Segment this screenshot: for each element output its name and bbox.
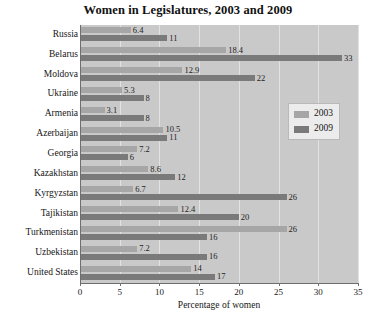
bar-2009 xyxy=(80,75,255,81)
bar-2009 xyxy=(80,214,239,220)
y-axis-label: Turkmenistan xyxy=(0,227,78,237)
bar-value-label-2009: 11 xyxy=(169,34,177,43)
bar-group: 7.216 xyxy=(80,243,358,263)
legend-label-2003: 2003 xyxy=(314,109,333,119)
y-axis-category-labels: RussiaBelarusMoldovaUkraineArmeniaAzerba… xyxy=(0,25,78,283)
x-axis-tick-label: 5 xyxy=(117,287,122,297)
bar-value-label-2009: 33 xyxy=(344,54,353,63)
bar-2003 xyxy=(80,127,163,133)
y-axis-label: Armenia xyxy=(0,108,78,118)
bar-group: 7.26 xyxy=(80,144,358,164)
chart-title: Women in Legislatures, 2003 and 2009 xyxy=(0,3,376,18)
bar-2009 xyxy=(80,194,287,200)
bar-value-label-2003: 14 xyxy=(193,264,202,273)
x-axis-tick-mark xyxy=(358,283,359,286)
x-axis-line xyxy=(80,283,358,284)
x-axis-tick-label: 35 xyxy=(354,287,363,297)
bar-value-label-2009: 26 xyxy=(289,193,298,202)
bar-value-label-2003: 7.2 xyxy=(139,244,150,253)
plot-area: 6.41118.43312.9225.383.1810.5117.268.612… xyxy=(80,25,358,283)
bar-value-label-2003: 12.9 xyxy=(184,66,199,75)
x-axis-tick-mark xyxy=(159,283,160,286)
x-axis-title: Percentage of women xyxy=(80,300,358,310)
bar-group: 8.612 xyxy=(80,164,358,184)
bar-2009 xyxy=(80,254,207,260)
x-axis-tick-mark xyxy=(318,283,319,286)
x-axis-tick-mark xyxy=(199,283,200,286)
legend-swatch-2003-icon xyxy=(294,111,309,118)
x-axis-tick-mark xyxy=(239,283,240,286)
y-axis-line xyxy=(80,25,81,284)
y-axis-label: Russia xyxy=(0,29,78,39)
bar-value-label-2003: 8.6 xyxy=(150,165,161,174)
bar-value-label-2003: 5.3 xyxy=(124,86,135,95)
x-axis-tick-label: 15 xyxy=(195,287,204,297)
bar-group: 5.38 xyxy=(80,85,358,105)
bar-2003 xyxy=(80,146,137,152)
bar-2003 xyxy=(80,107,105,113)
bar-value-label-2003: 18.4 xyxy=(228,46,243,55)
bar-value-label-2009: 16 xyxy=(209,233,218,242)
bar-2003 xyxy=(80,226,287,232)
bar-2009 xyxy=(80,234,207,240)
legend-label-2009: 2009 xyxy=(314,124,333,134)
gridline xyxy=(358,25,359,283)
bar-value-label-2009: 12 xyxy=(177,173,186,182)
y-axis-label: Azerbaijan xyxy=(0,128,78,138)
legend-swatch-2009-icon xyxy=(294,126,309,133)
bar-2003 xyxy=(80,67,182,73)
bar-2009 xyxy=(80,35,167,41)
bar-group: 2616 xyxy=(80,223,358,243)
bar-value-label-2003: 26 xyxy=(289,225,298,234)
bar-value-label-2003: 12.4 xyxy=(180,205,195,214)
bar-2009 xyxy=(80,95,144,101)
y-axis-label: Tajikistan xyxy=(0,208,78,218)
bar-2009 xyxy=(80,135,167,141)
bar-2009 xyxy=(80,274,215,280)
bar-group: 6.726 xyxy=(80,184,358,204)
bar-2003 xyxy=(80,27,131,33)
x-axis-tick-label: 0 xyxy=(78,287,83,297)
bar-value-label-2003: 6.4 xyxy=(133,26,144,35)
bar-2009 xyxy=(80,55,342,61)
bar-2003 xyxy=(80,47,226,53)
bar-value-label-2009: 20 xyxy=(241,213,250,222)
y-axis-label: Belarus xyxy=(0,49,78,59)
bar-2003 xyxy=(80,186,133,192)
legend-item-2009: 2009 xyxy=(294,123,333,135)
y-axis-label: Georgia xyxy=(0,148,78,158)
y-axis-label: Uzbekistan xyxy=(0,247,78,257)
bar-group: 18.433 xyxy=(80,45,358,65)
x-axis-tick-label: 25 xyxy=(274,287,283,297)
x-axis-tick-label: 20 xyxy=(234,287,243,297)
x-axis-tick-mark xyxy=(80,283,81,286)
chart-container: Women in Legislatures, 2003 and 2009 6.4… xyxy=(0,0,376,332)
x-axis-tick-label: 10 xyxy=(155,287,164,297)
y-axis-label: Kazakhstan xyxy=(0,168,78,178)
bar-value-label-2009: 6 xyxy=(130,153,134,162)
bar-value-label-2009: 8 xyxy=(146,114,150,123)
bar-group: 12.922 xyxy=(80,65,358,85)
bar-2003 xyxy=(80,266,191,272)
bar-2003 xyxy=(80,246,137,252)
bar-value-label-2009: 16 xyxy=(209,252,218,261)
bar-2003 xyxy=(80,87,122,93)
bar-2003 xyxy=(80,166,148,172)
bar-value-label-2009: 8 xyxy=(146,94,150,103)
y-axis-label: Kyrgyzstan xyxy=(0,188,78,198)
y-axis-label: Ukraine xyxy=(0,88,78,98)
legend-item-2003: 2003 xyxy=(294,108,333,120)
y-axis-label: United States xyxy=(0,267,78,277)
bar-group: 1417 xyxy=(80,263,358,283)
bar-value-label-2009: 11 xyxy=(169,133,177,142)
bar-value-label-2003: 7.2 xyxy=(139,145,150,154)
bar-value-label-2009: 22 xyxy=(257,74,266,83)
y-axis-label: Moldova xyxy=(0,69,78,79)
x-axis-tick-mark xyxy=(279,283,280,286)
bar-value-label-2003: 6.7 xyxy=(135,185,146,194)
bar-2003 xyxy=(80,206,178,212)
bar-2009 xyxy=(80,115,144,121)
bar-group: 6.411 xyxy=(80,25,358,45)
bar-group: 12.420 xyxy=(80,204,358,224)
bar-value-label-2009: 17 xyxy=(217,272,226,281)
